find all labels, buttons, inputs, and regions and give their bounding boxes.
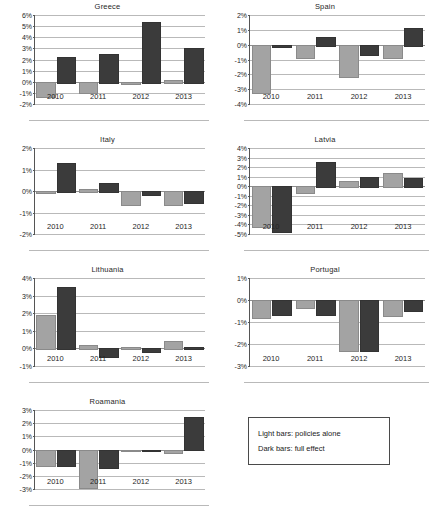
panel-cell-2: Italy2%1%0%-1%-2%2010201120122013 (0, 133, 215, 263)
x-tick-label: 2012 (120, 88, 163, 104)
y-tick-label: -3% (20, 486, 32, 493)
y-tick-label: -2% (20, 231, 32, 238)
bar-light (296, 45, 316, 59)
chart-panel-latvia: Latvia4%3%2%1%0%-1%-2%-3%-4%-5%201020112… (215, 133, 435, 263)
x-tick-label: 2011 (293, 88, 337, 104)
bar-dark (272, 45, 292, 48)
x-tick-label: 2011 (77, 473, 120, 489)
chart-panel-spain: Spain2%1%0%-1%-2%-3%-4%2010201120122013 (215, 0, 435, 133)
gridline (35, 104, 205, 105)
x-tick-label: 2013 (381, 218, 425, 234)
y-tick-label: -2% (20, 472, 32, 479)
bar-dark (57, 163, 77, 193)
panel-baseline (244, 120, 429, 121)
y-tick-label: 1% (22, 67, 32, 74)
y-tick-label: 3% (22, 45, 32, 52)
x-tick-label: 2012 (337, 218, 381, 234)
y-tick-label: -3% (235, 86, 247, 93)
y-tick-label: 3% (22, 407, 32, 414)
panel-baseline (29, 250, 209, 251)
bar-dark (360, 45, 380, 56)
y-tick-label: 0% (22, 345, 32, 352)
panel-cell-1: Spain2%1%0%-1%-2%-3%-4%2010201120122013 (215, 0, 435, 133)
panel-cell-4: Lithuania4%3%2%1%0%-1%2010201120122013 (0, 263, 215, 395)
y-tick-label: 3% (237, 154, 247, 161)
bar-light (164, 450, 184, 455)
bar-dark (99, 183, 119, 193)
y-tick-label: 1% (237, 173, 247, 180)
chart-panel-portugal: Portugal1%0%-1%-2%-3%2010201120122013 (215, 263, 435, 395)
y-tick-label: 4% (22, 275, 32, 282)
x-tick-label: 2013 (381, 88, 425, 104)
gridline (35, 489, 205, 490)
panel-baseline (29, 505, 209, 506)
bar-dark (99, 54, 119, 84)
panel-title: Lithuania (0, 265, 215, 274)
panel-title: Spain (215, 2, 435, 11)
x-tick-label: 2010 (249, 88, 293, 104)
bar-light (79, 189, 99, 193)
y-tick-label: 1% (22, 327, 32, 334)
y-tick-mark (248, 104, 251, 105)
panel-title: Roamania (0, 397, 215, 406)
x-axis: 2010201120122013 (34, 88, 205, 104)
chart-panel-italy: Italy2%1%0%-1%-2%2010201120122013 (0, 133, 215, 263)
bar-dark (57, 450, 77, 467)
y-tick-label: 3% (22, 292, 32, 299)
bar-dark (142, 191, 162, 196)
y-tick-label: 1% (237, 26, 247, 33)
y-tick-mark (33, 489, 36, 490)
x-axis: 2010201120122013 (34, 350, 205, 366)
panel-cell-5: Portugal1%0%-1%-2%-3%2010201120122013 (215, 263, 435, 395)
bar-light (296, 186, 316, 194)
x-axis: 2010201120122013 (34, 473, 205, 489)
y-tick-label: -1% (235, 319, 247, 326)
x-tick-label: 2010 (34, 350, 77, 366)
chart-panel-roamania: Roamania3%2%1%0%-1%-2%-3%201020112012201… (0, 395, 215, 518)
y-tick-label: -3% (235, 211, 247, 218)
x-tick-label: 2013 (162, 218, 205, 234)
x-tick-label: 2012 (120, 350, 163, 366)
y-tick-label: 2% (22, 420, 32, 427)
y-tick-label: -1% (20, 459, 32, 466)
bar-dark (316, 37, 336, 47)
x-tick-label: 2010 (34, 473, 77, 489)
x-tick-label: 2012 (337, 350, 381, 366)
y-tick-label: -1% (235, 56, 247, 63)
y-tick-label: -1% (235, 192, 247, 199)
bar-light (121, 82, 141, 86)
y-tick-label: 0% (237, 183, 247, 190)
y-tick-label: -1% (20, 209, 32, 216)
x-axis: 2010201120122013 (249, 350, 425, 366)
chart-panel-lithuania: Lithuania4%3%2%1%0%-1%2010201120122013 (0, 263, 215, 395)
bar-light (339, 45, 359, 78)
y-tick-mark (33, 234, 36, 235)
x-tick-label: 2011 (293, 350, 337, 366)
x-tick-label: 2010 (249, 218, 293, 234)
y-tick-label: 6% (22, 12, 32, 19)
y-tick-label: 2% (237, 12, 247, 19)
bar-dark (316, 300, 336, 316)
bar-light (339, 300, 359, 352)
panel-cell-0: Greece6%5%4%3%2%1%0%-1%-2%20102011201220… (0, 0, 215, 133)
y-tick-label: -2% (20, 101, 32, 108)
bar-dark (404, 178, 424, 189)
bar-light (383, 300, 403, 317)
y-tick-label: 1% (22, 433, 32, 440)
panel-title: Portugal (215, 265, 435, 274)
y-tick-label: -1% (20, 363, 32, 370)
y-tick-label: -1% (20, 89, 32, 96)
y-tick-label: -4% (235, 101, 247, 108)
y-tick-label: 4% (237, 145, 247, 152)
panel-baseline (29, 120, 209, 121)
panel-baseline (244, 250, 429, 251)
x-axis: 2010201120122013 (249, 218, 425, 234)
legend-cell: Light bars: policies alone Dark bars: fu… (215, 395, 435, 518)
x-tick-label: 2013 (162, 88, 205, 104)
panel-title: Italy (0, 135, 215, 144)
y-tick-mark (248, 234, 251, 235)
bar-light (36, 191, 56, 194)
y-tick-label: 0% (237, 297, 247, 304)
bar-light (121, 191, 141, 206)
bar-light (296, 300, 316, 309)
